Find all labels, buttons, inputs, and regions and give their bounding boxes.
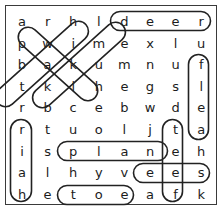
grid-letter-r5c5[interactable]: b [112, 97, 136, 119]
grid-letter-r7c2[interactable]: s [36, 141, 60, 163]
grid-letter-r3c2[interactable]: a [36, 54, 60, 76]
grid-letter-r9c8[interactable]: k [189, 184, 213, 206]
grid-letter-r6c2[interactable]: t [36, 119, 60, 141]
grid-letter-r4c6[interactable]: g [138, 76, 162, 98]
grid-letter-r7c7[interactable]: e [164, 141, 188, 163]
grid-letter-r2c8[interactable]: u [189, 33, 213, 55]
grid-letter-r4c5[interactable]: e [112, 76, 136, 98]
grid-letter-r2c4[interactable]: m [87, 33, 111, 55]
grid-letter-r1c1[interactable]: a [10, 11, 34, 33]
grid-letter-r6c7[interactable]: t [164, 119, 188, 141]
grid-letter-r5c7[interactable]: d [164, 97, 188, 119]
grid-letter-r8c2[interactable]: l [36, 162, 60, 184]
word-search-puzzle: arhldeerpwimexlubakumnuftklhegslrbcebwde… [0, 0, 224, 212]
grid-letter-r9c5[interactable]: e [112, 184, 136, 206]
grid-letter-r4c2[interactable]: k [36, 76, 60, 98]
grid-letter-r4c8[interactable]: l [189, 76, 213, 98]
grid-letter-r2c7[interactable]: l [164, 33, 188, 55]
grid-letter-r3c6[interactable]: n [138, 54, 162, 76]
grid-letter-r8c8[interactable]: s [189, 162, 213, 184]
grid-letter-r9c1[interactable]: h [10, 184, 34, 206]
grid-letter-r2c3[interactable]: i [61, 33, 85, 55]
grid-letter-r6c8[interactable]: a [189, 119, 213, 141]
grid-letter-r2c1[interactable]: p [10, 33, 34, 55]
grid-letter-r6c5[interactable]: l [112, 119, 136, 141]
grid-letter-r8c5[interactable]: v [112, 162, 136, 184]
grid-letter-r2c2[interactable]: w [36, 33, 60, 55]
grid-letter-r1c7[interactable]: e [164, 11, 188, 33]
grid-letter-r1c5[interactable]: d [112, 11, 136, 33]
grid-letter-r9c2[interactable]: e [36, 184, 60, 206]
grid-letter-r9c3[interactable]: t [61, 184, 85, 206]
grid-letter-r3c3[interactable]: k [61, 54, 85, 76]
grid-letter-r4c3[interactable]: l [61, 76, 85, 98]
grid-letter-r7c4[interactable]: l [87, 141, 111, 163]
grid-letter-r5c1[interactable]: r [10, 97, 34, 119]
grid-letter-r7c1[interactable]: i [10, 141, 34, 163]
grid-letter-r4c1[interactable]: t [10, 76, 34, 98]
grid-letter-r3c7[interactable]: u [164, 54, 188, 76]
grid-letter-r1c4[interactable]: l [87, 11, 111, 33]
grid-letter-r8c4[interactable]: y [87, 162, 111, 184]
grid-letter-r7c3[interactable]: p [61, 141, 85, 163]
grid-letter-r7c6[interactable]: n [138, 141, 162, 163]
grid-letter-r8c7[interactable]: e [164, 162, 188, 184]
grid-letter-r1c2[interactable]: r [36, 11, 60, 33]
grid-letter-r3c5[interactable]: m [112, 54, 136, 76]
grid-letter-r8c3[interactable]: h [61, 162, 85, 184]
grid-letter-r7c5[interactable]: a [112, 141, 136, 163]
grid-letter-r9c7[interactable]: f [164, 184, 188, 206]
grid-letter-r6c6[interactable]: j [138, 119, 162, 141]
grid-letter-r2c6[interactable]: x [138, 33, 162, 55]
grid-letter-r5c3[interactable]: c [61, 97, 85, 119]
grid-letter-r1c6[interactable]: e [138, 11, 162, 33]
grid-letter-r9c4[interactable]: o [87, 184, 111, 206]
grid-letter-r8c6[interactable]: e [138, 162, 162, 184]
grid-letter-r3c4[interactable]: u [87, 54, 111, 76]
grid-letter-r1c3[interactable]: h [61, 11, 85, 33]
grid-letter-r5c2[interactable]: b [36, 97, 60, 119]
grid-letter-r4c7[interactable]: s [164, 76, 188, 98]
grid-letter-r5c6[interactable]: w [138, 97, 162, 119]
grid-letter-r8c1[interactable]: a [10, 162, 34, 184]
grid-letter-r9c6[interactable]: a [138, 184, 162, 206]
grid-letter-r2c5[interactable]: e [112, 33, 136, 55]
grid-letter-r6c4[interactable]: o [87, 119, 111, 141]
grid-letter-r3c8[interactable]: f [189, 54, 213, 76]
grid-letter-r5c4[interactable]: e [87, 97, 111, 119]
grid-letter-r3c1[interactable]: b [10, 54, 34, 76]
grid-letter-r6c1[interactable]: r [10, 119, 34, 141]
grid-letter-r7c8[interactable]: h [189, 141, 213, 163]
grid-letter-r1c8[interactable]: r [189, 11, 213, 33]
grid-letter-r6c3[interactable]: u [61, 119, 85, 141]
grid-letter-r4c4[interactable]: h [87, 76, 111, 98]
grid-letter-r5c8[interactable]: e [189, 97, 213, 119]
letter-grid: arhldeerpwimexlubakumnuftklhegslrbcebwde… [0, 0, 224, 212]
